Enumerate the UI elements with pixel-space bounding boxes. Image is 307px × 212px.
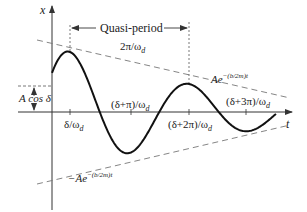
tick-label-4: (δ+3π)/ωd xyxy=(226,95,271,110)
damped-oscillation-diagram: x t Quasi-period 2π/ωd A cos δ δ/ωd (δ+π… xyxy=(0,0,307,212)
quasi-period-value: 2π/ωd xyxy=(120,40,146,55)
x-axis-label: x xyxy=(39,3,46,17)
initial-value-label: A cos δ xyxy=(18,92,52,104)
tick-label-3: (δ+2π)/ωd xyxy=(168,118,213,133)
lower-envelope-label: −Ae−(b/2m)t xyxy=(68,171,113,184)
upper-envelope-label: Ae−(b/2m)t xyxy=(210,72,249,85)
upper-envelope xyxy=(37,40,290,98)
t-axis-label: t xyxy=(286,117,290,131)
tick-label-1: δ/ωd xyxy=(64,118,84,133)
quasi-period-title: Quasi-period xyxy=(100,21,163,35)
